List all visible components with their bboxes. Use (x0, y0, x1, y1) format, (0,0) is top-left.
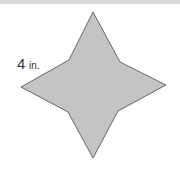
side-length-unit: in. (29, 60, 40, 71)
side-length-value: 4 (17, 55, 25, 72)
side-length-label: 4 in. (17, 55, 40, 72)
star-figure (0, 0, 180, 173)
four-pointed-star-shape (21, 12, 166, 158)
